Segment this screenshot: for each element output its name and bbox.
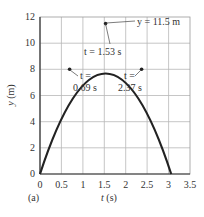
y-axis-label: y (m) xyxy=(5,84,17,106)
peak-t-label: t = 1.53 s xyxy=(84,46,121,57)
y-tick: 8 xyxy=(30,63,35,74)
y-tick: 6 xyxy=(30,90,35,101)
x-tick: 3 xyxy=(166,179,171,190)
x-axis-unit: (s) xyxy=(104,192,117,204)
y-tick: 2 xyxy=(30,142,35,153)
x-tick: 0.5 xyxy=(55,179,68,190)
right-t-label-1: t = xyxy=(124,70,135,81)
x-tick: 1 xyxy=(80,179,85,190)
x-tick: 2 xyxy=(123,179,128,190)
y-axis-unit: (m) xyxy=(5,84,17,101)
x-tick: 0 xyxy=(38,179,43,190)
y-tick: 4 xyxy=(30,116,35,127)
peak-y-label: y = 11.5 m xyxy=(137,16,180,27)
panel-label: (a) xyxy=(28,192,39,204)
x-axis-label: t (s) xyxy=(101,192,117,204)
trajectory-curve xyxy=(40,74,171,175)
grid xyxy=(40,17,190,174)
x-tick: 1.5 xyxy=(98,179,111,190)
left-t-label-2: 0.69 s xyxy=(73,82,97,93)
left-t-label-1: t = xyxy=(80,70,91,81)
y-tick: 0 xyxy=(30,168,35,179)
x-tick-labels: 0 0.5 1 1.5 2 2.5 3 3.5 xyxy=(38,179,197,190)
right-t-label-2: 2.37 s xyxy=(118,82,142,93)
y-tick-labels: 0 2 4 6 8 10 12 xyxy=(25,11,35,179)
chart-canvas: y = 11.5 m t = 1.53 s t = 0.69 s t = 2.3… xyxy=(0,0,204,217)
x-tick: 2.5 xyxy=(141,179,154,190)
y-tick: 12 xyxy=(25,11,35,22)
y-tick: 10 xyxy=(25,37,35,48)
x-tick: 3.5 xyxy=(184,179,197,190)
